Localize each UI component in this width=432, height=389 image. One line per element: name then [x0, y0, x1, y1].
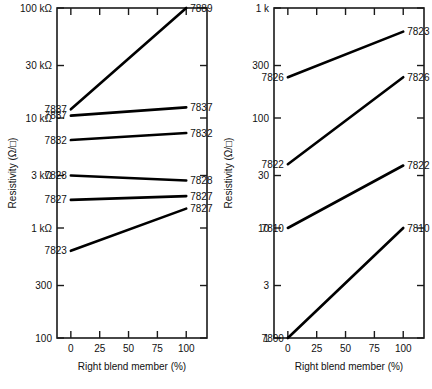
y-tick-label: 100 kΩ	[20, 3, 52, 14]
series-line-7827	[71, 196, 186, 200]
series-label-right-7827: 7827	[190, 191, 213, 202]
y-tick-label: 300	[252, 60, 269, 71]
resistivity-blend-figure: 100 kΩ30 kΩ10 kΩ3 kΩ1 kΩ3001000255075100…	[0, 0, 432, 389]
y-tick-label: 100	[252, 113, 269, 124]
series-label-right-7832: 7832	[190, 128, 213, 139]
y-axis-title: Resistivity (Ω/□)	[223, 138, 234, 209]
x-tick-label: 0	[68, 343, 74, 354]
series-line-7889	[71, 8, 186, 109]
x-tick-label: 100	[395, 343, 412, 354]
x-tick-label: 75	[369, 343, 381, 354]
series-label-right-7828: 7828	[190, 175, 213, 186]
x-tick-label: 100	[178, 343, 195, 354]
y-tick-label: 1 k	[256, 3, 270, 14]
chart-svg-right: 1 k3001003010310255075100Right blend mem…	[216, 0, 432, 389]
series-label-left-7832: 7832	[45, 135, 68, 146]
x-tick-label: 25	[311, 343, 323, 354]
series-label-left-7828: 7828	[45, 170, 68, 181]
series-label-left-7810: 7810	[262, 223, 285, 234]
plot-frame	[57, 8, 207, 338]
series-label-left-7822: 7822	[262, 159, 285, 170]
series-label-right-7827: 7827	[190, 203, 213, 214]
x-axis-title: Right blend member (%)	[295, 361, 403, 372]
series-label-left-7826: 7826	[262, 72, 285, 83]
chart-panel-right: 1 k3001003010310255075100Right blend mem…	[216, 0, 432, 389]
y-tick-label: 100	[35, 333, 52, 344]
series-line-7826	[288, 77, 403, 164]
series-label-right-7837: 7837	[190, 102, 213, 113]
x-tick-label: 75	[152, 343, 164, 354]
series-label-left-7800: 7800	[262, 333, 285, 344]
series-line-7823	[288, 32, 403, 78]
y-tick-label: 30	[258, 170, 270, 181]
series-label-left-7823: 7823	[45, 245, 68, 256]
series-line-7823	[71, 209, 186, 251]
series-label-right-7810: 7810	[407, 223, 430, 234]
series-line-7837	[71, 107, 186, 115]
plot-frame	[274, 8, 424, 338]
chart-svg-left: 100 kΩ30 kΩ10 kΩ3 kΩ1 kΩ3001000255075100…	[0, 0, 216, 389]
chart-panel-left: 100 kΩ30 kΩ10 kΩ3 kΩ1 kΩ3001000255075100…	[0, 0, 216, 389]
series-label-right-7826: 7826	[407, 72, 430, 83]
y-tick-label: 1 kΩ	[31, 223, 52, 234]
series-line-7822	[288, 165, 403, 228]
series-line-7828	[71, 176, 186, 181]
y-tick-label: 300	[35, 280, 52, 291]
x-tick-label: 50	[340, 343, 352, 354]
y-axis-title: Resistivity (Ω/□)	[7, 138, 18, 209]
series-label-right-7823: 7823	[407, 26, 430, 37]
y-tick-label: 3	[263, 280, 269, 291]
x-tick-label: 0	[285, 343, 291, 354]
series-line-7810	[288, 228, 403, 338]
series-label-right-7822: 7822	[407, 160, 430, 171]
x-tick-label: 50	[123, 343, 135, 354]
series-label-right-7889: 7889	[190, 3, 213, 14]
x-tick-label: 25	[94, 343, 106, 354]
x-axis-title: Right blend member (%)	[78, 361, 186, 372]
series-label-left-7827: 7827	[45, 194, 68, 205]
y-tick-label: 30 kΩ	[26, 60, 53, 71]
series-label-left-7837: 7837	[45, 110, 68, 121]
series-line-7832	[71, 133, 186, 140]
